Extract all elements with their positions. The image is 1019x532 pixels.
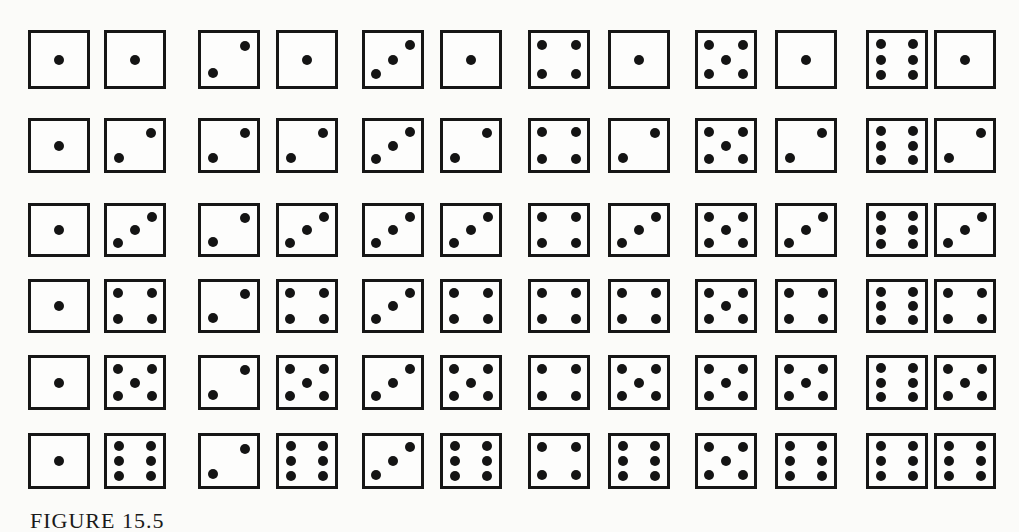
pip-icon [240,365,250,375]
die-r3-p6-second [934,203,996,257]
pip-icon [651,314,661,324]
pip-icon [943,314,953,324]
pip-icon [876,211,886,221]
die-r4-p6-second [934,279,996,333]
die-r6-p4-first [528,433,590,489]
pip-icon [876,155,886,165]
pip-icon [571,470,581,480]
pip-icon [54,225,64,235]
pip-icon [318,471,328,481]
pip-icon [405,40,415,50]
die-r3-p3-second [440,203,502,257]
pip-icon [704,127,714,137]
pip-icon [876,39,886,49]
die-r6-p3-second [440,433,502,489]
die-r6-p5-first [695,433,757,489]
pip-icon [908,211,918,221]
die-r1-p2-first [198,30,260,89]
pip-icon [651,288,661,298]
pip-icon [405,364,415,374]
die-r3-p5-first [695,203,757,257]
die-r6-p1-first [28,433,90,489]
pip-icon [319,391,329,401]
pip-icon [449,391,459,401]
pip-icon [571,314,581,324]
pip-icon [785,456,795,466]
pip-icon [405,127,415,137]
pip-icon [371,314,381,324]
pip-icon [571,391,581,401]
pip-icon [482,441,492,451]
pip-icon [876,126,886,136]
die-r6-p6-first [866,433,928,489]
pip-icon [147,391,157,401]
die-r5-p5-second [775,355,837,410]
die-r5-p4-first [528,355,590,410]
pip-icon [634,55,644,65]
die-r2-p6-second [934,118,996,173]
pip-icon [54,55,64,65]
die-r4-p2-second [276,279,338,333]
pip-icon [537,154,547,164]
pip-icon [908,55,918,65]
die-r6-p6-second [934,433,996,489]
die-r6-p1-second [104,433,166,489]
pip-icon [571,69,581,79]
pip-icon [976,456,986,466]
die-r2-p3-first [362,118,424,173]
pip-icon [738,154,748,164]
die-r1-p6-second [934,30,996,89]
pip-icon [738,314,748,324]
pip-icon [651,212,661,222]
pip-icon [618,441,628,451]
pip-icon [450,441,460,451]
pip-icon [285,364,295,374]
pip-icon [537,442,547,452]
pip-icon [908,441,918,451]
pip-icon [977,212,987,222]
pip-icon [876,287,886,297]
pip-icon [738,212,748,222]
die-r3-p1-first [28,203,90,257]
die-r4-p5-first [695,279,757,333]
pip-icon [240,213,250,223]
pip-icon [704,470,714,480]
pip-icon [908,363,918,373]
die-r3-p3-first [362,203,424,257]
pip-icon [908,456,918,466]
pip-icon [371,69,381,79]
die-r6-p5-second [775,433,837,489]
pip-icon [738,364,748,374]
pip-icon [388,55,398,65]
pip-icon [113,288,123,298]
pip-icon [876,70,886,80]
pip-icon [908,378,918,388]
pip-icon [704,154,714,164]
pip-icon [977,314,987,324]
die-r1-p5-second [775,30,837,89]
pip-icon [876,363,886,373]
die-r5-p3-first [362,355,424,410]
pip-icon [483,288,493,298]
pip-icon [208,237,218,247]
pip-icon [147,364,157,374]
die-r3-p4-first [528,203,590,257]
die-r2-p1-first [28,118,90,173]
pip-icon [240,128,250,138]
die-r2-p3-second [440,118,502,173]
pip-icon [466,378,476,388]
pip-icon [388,301,398,311]
pip-icon [319,314,329,324]
pip-icon [818,391,828,401]
pip-icon [449,238,459,248]
pip-icon [721,378,731,388]
pip-icon [618,471,628,481]
pip-icon [651,364,661,374]
pip-icon [482,456,492,466]
die-r3-p1-second [104,203,166,257]
pip-icon [876,239,886,249]
pip-icon [876,441,886,451]
die-r1-p3-first [362,30,424,89]
pip-icon [449,364,459,374]
die-r5-p6-second [934,355,996,410]
